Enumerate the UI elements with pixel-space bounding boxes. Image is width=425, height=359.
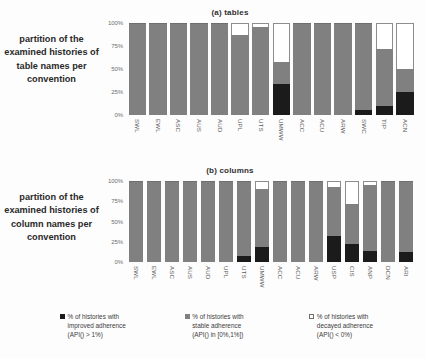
legend-label-line: (API() < 0%) [317, 330, 373, 339]
bar-segment-stable [314, 23, 331, 115]
bar-segment-stable [211, 23, 228, 115]
bar-column [381, 181, 396, 262]
panel-tables: (a) tables partition of the examined his… [0, 6, 425, 168]
bar-segment-stable [273, 181, 288, 262]
x-tick: EWL [149, 117, 166, 157]
bar-segment-stable [149, 23, 166, 115]
bar-segment-stable [190, 23, 207, 115]
x-tick-label: ANP [367, 266, 374, 279]
bar-segment-stable [363, 185, 378, 251]
bar-segment-decayed [255, 181, 270, 189]
x-tick: EWL [147, 264, 162, 304]
bar-segment-decayed [345, 181, 360, 204]
bar-segment-stable [273, 62, 290, 84]
bar-segment-stable [219, 181, 234, 262]
bar-column [211, 23, 228, 115]
y-tick-label: 75% [111, 43, 123, 49]
bar-column [165, 181, 180, 262]
legend-label-line: improved adherence [68, 321, 126, 330]
x-tick: USP [327, 264, 342, 304]
y-tick-label: 50% [111, 66, 123, 72]
legend-item: % of histories withstable adherence(API(… [185, 312, 296, 340]
legend-label-line: % of histories with [192, 312, 244, 321]
x-tick-label: AUS [187, 266, 194, 279]
bar-column [129, 23, 146, 115]
x-tick: CIS [345, 264, 360, 304]
bar-segment-stable [231, 35, 248, 115]
bar-column [396, 23, 413, 115]
x-tick: SWC [355, 117, 372, 157]
y-tick-label: 0% [115, 259, 123, 265]
x-tick: ARW [334, 117, 351, 157]
x-tick: ARW [309, 264, 324, 304]
x-tick: ACU [314, 117, 331, 157]
bar-column [201, 181, 216, 262]
x-tick: ASC [165, 264, 180, 304]
bar-segment-decayed [231, 23, 248, 35]
bar-segment-stable [129, 23, 146, 115]
bar-segment-stable [396, 69, 413, 92]
bar-column [309, 181, 324, 262]
bar-segment-improved [345, 244, 360, 262]
x-tick-label: SWL [134, 119, 141, 133]
x-tick: ARI [399, 264, 414, 304]
bar-column [376, 23, 393, 115]
x-tick: ASC [170, 117, 187, 157]
x-tick-label: UPL [237, 119, 244, 131]
bar-column [252, 23, 269, 115]
bar-column [355, 23, 372, 115]
legend-item: % of histories withimproved adherence(AP… [60, 312, 171, 340]
legend-swatch-decayed-icon [309, 314, 314, 319]
panel-a-plot: 100%75%50%25%0% SWLEWLASCAUSAUDUPLUTSUMW… [103, 19, 425, 167]
bar-column [293, 23, 310, 115]
x-tick: AUS [183, 264, 198, 304]
x-tick-label: SWC [360, 119, 367, 134]
bar-column [149, 23, 166, 115]
x-tick-label: EWL [154, 119, 161, 133]
x-tick-label: UPL [223, 266, 230, 278]
x-tick: ACC [293, 117, 310, 157]
x-tick-label: AUS [196, 119, 203, 132]
bar-segment-improved [273, 84, 290, 115]
x-tick-label: CIS [349, 266, 356, 277]
legend-label-line: % of histories with [68, 312, 126, 321]
x-tick-label: ACC [298, 119, 305, 132]
legend-label: % of histories withimproved adherence(AP… [68, 312, 126, 340]
x-tick-label: ARW [313, 266, 320, 281]
bar-segment-stable [345, 204, 360, 245]
bar-segment-stable [252, 27, 269, 115]
bar-segment-stable [291, 181, 306, 262]
legend-swatch-improved-icon [60, 314, 65, 319]
bar-column [363, 181, 378, 262]
bar-segment-stable [376, 49, 393, 106]
bar-segment-stable [293, 23, 310, 115]
bar-column [183, 181, 198, 262]
chart-legend: % of histories withimproved adherence(AP… [60, 312, 420, 340]
legend-swatch-stable-icon [185, 314, 190, 319]
legend-label-line: stable adherence [192, 321, 244, 330]
panel-a-x-axis: SWLEWLASCAUSAUDUPLUTSUMWWACCACUARWSWCTIP… [127, 117, 415, 157]
bar-segment-improved [237, 256, 252, 262]
x-tick: SWL [129, 264, 144, 304]
bar-column [327, 181, 342, 262]
legend-label-line: (API() > 1%) [68, 330, 126, 339]
panel-a-caption: partition of the examined histories of t… [0, 19, 103, 87]
bar-segment-improved [355, 110, 372, 115]
x-tick: ANP [363, 264, 378, 304]
bar-segment-improved [255, 247, 270, 262]
x-tick: DCN [381, 264, 396, 304]
bar-segment-stable [381, 181, 396, 262]
x-tick: ACC [273, 264, 288, 304]
legend-label-line: % of histories with [317, 312, 373, 321]
bar-segment-decayed [396, 23, 413, 69]
x-tick-label: DCN [385, 266, 392, 280]
x-tick-label: AUD [216, 119, 223, 132]
x-tick: UTS [237, 264, 252, 304]
panel-a-title: (a) tables [0, 6, 425, 19]
bar-column [345, 181, 360, 262]
panel-b-plot: 100%75%50%25%0% SWLEWLASCAUSAUDUPLUTSUMW… [103, 177, 425, 307]
x-tick-label: UTS [257, 119, 264, 132]
bar-column [147, 181, 162, 262]
x-tick: TIP [376, 117, 393, 157]
x-tick-label: USP [331, 266, 338, 279]
